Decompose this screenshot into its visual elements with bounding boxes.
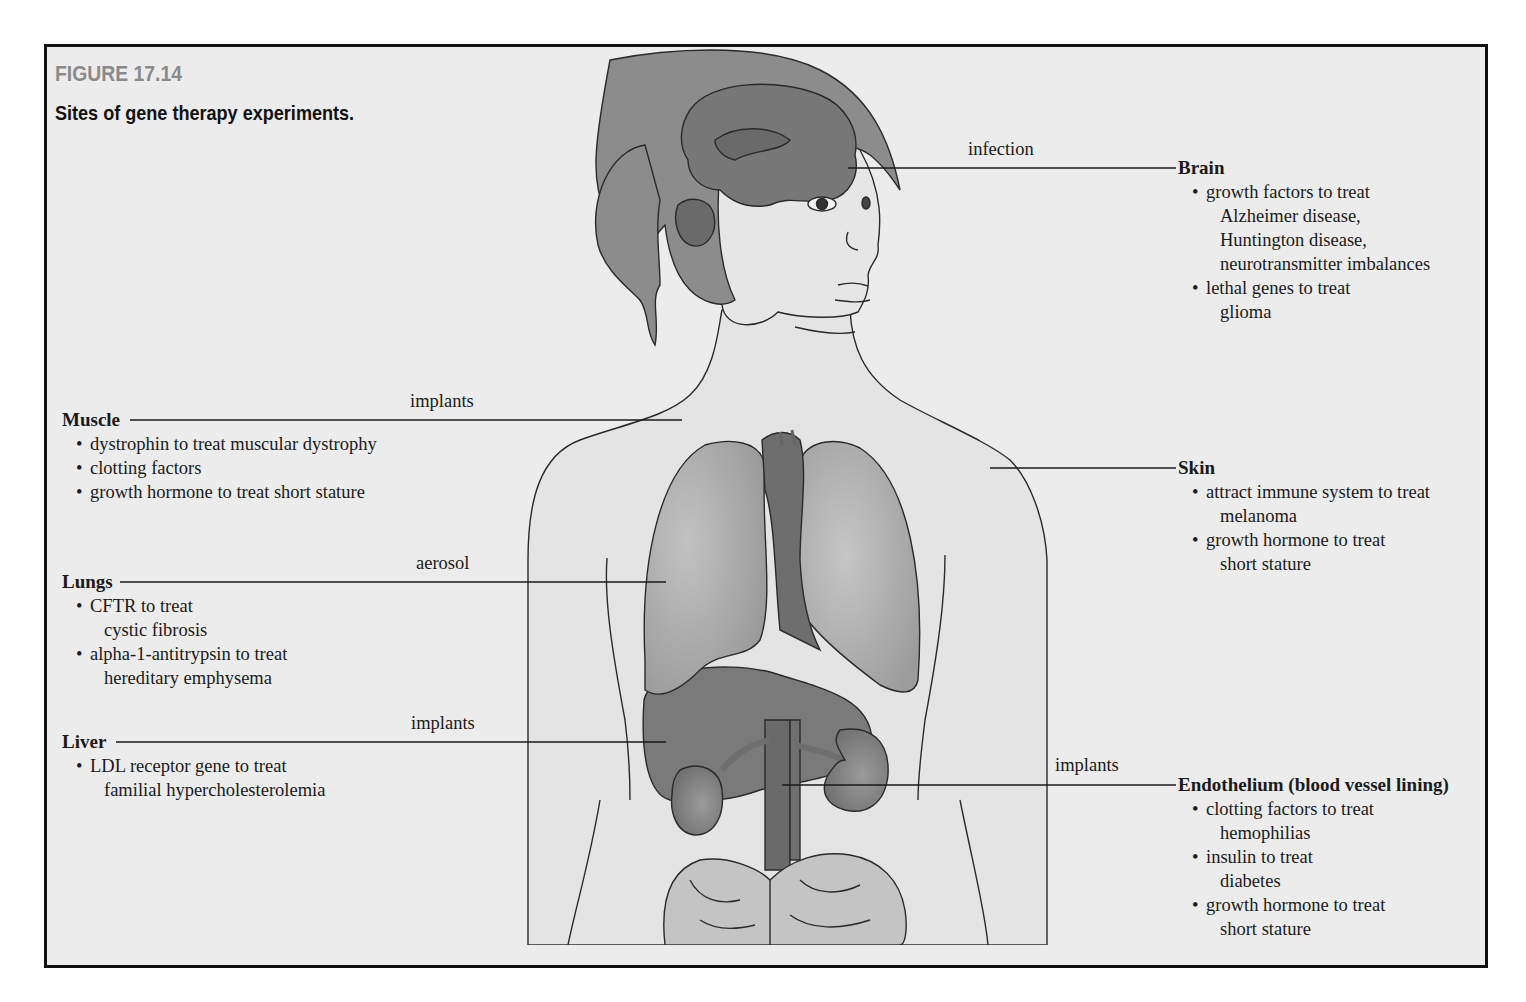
cerebellum	[676, 199, 715, 246]
site-title-endothelium: Endothelium (blood vessel lining)	[1178, 773, 1449, 797]
site-liver: Liver •LDL receptor gene to treat famili…	[62, 730, 325, 802]
kidney-left	[672, 766, 723, 835]
bullet-item: •LDL receptor gene to treat	[76, 754, 325, 778]
site-title-skin: Skin	[1178, 456, 1430, 480]
site-title-brain: Brain	[1178, 156, 1430, 180]
site-skin: Skin •attract immune system to treat mel…	[1178, 456, 1430, 576]
route-label-implants-muscle: implants	[410, 391, 474, 412]
bullet-item: •growth hormone to treat short stature	[76, 480, 377, 504]
bullet-item: •CFTR to treat	[76, 594, 287, 618]
bullet-item: •clotting factors	[76, 456, 377, 480]
site-title-lungs: Lungs	[62, 570, 287, 594]
site-title-liver: Liver	[62, 730, 325, 754]
bullet-item: •clotting factors to treat	[1192, 797, 1449, 821]
site-endothelium: Endothelium (blood vessel lining) •clott…	[1178, 773, 1449, 941]
site-title-muscle: Muscle	[62, 408, 377, 432]
site-lungs: Lungs •CFTR to treat cystic fibrosis •al…	[62, 570, 287, 690]
route-label-aerosol: aerosol	[416, 553, 469, 574]
route-label-infection: infection	[968, 139, 1034, 160]
bullet-item: •dystrophin to treat muscular dystrophy	[76, 432, 377, 456]
site-muscle: Muscle •dystrophin to treat muscular dys…	[62, 408, 377, 504]
bullet-item: •attract immune system to treat	[1192, 480, 1430, 504]
route-label-implants-liver: implants	[411, 713, 475, 734]
bullet-item: •alpha-1-antitrypsin to treat	[76, 642, 287, 666]
intestines	[664, 854, 906, 945]
bullet-item: •growth factors to treat	[1192, 180, 1430, 204]
bullet-item: •lethal genes to treat	[1192, 276, 1430, 300]
bullet-item: •growth hormone to treat	[1192, 893, 1449, 917]
site-brain: Brain •growth factors to treat Alzheimer…	[1178, 156, 1430, 324]
bullet-item: •growth hormone to treat	[1192, 528, 1430, 552]
route-label-implants-endothelium: implants	[1055, 755, 1119, 776]
bullet-item: •insulin to treat	[1192, 845, 1449, 869]
